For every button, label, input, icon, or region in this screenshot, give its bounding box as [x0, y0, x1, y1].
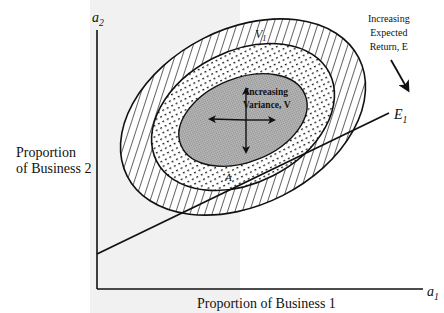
- v1-label: V1: [255, 27, 267, 46]
- return-label-line1: Increasing: [368, 12, 410, 26]
- y-axis-label-line2: of Business 2: [16, 161, 91, 177]
- e1-label: E1: [394, 107, 407, 127]
- x-axis-label: Proportion of Business 1: [197, 296, 336, 311]
- return-label-line2: Expected: [368, 26, 410, 40]
- variance-label-line2: Variance, V: [243, 99, 291, 112]
- point-a-label: A: [225, 170, 232, 185]
- variance-label-line1: Increasing: [243, 86, 291, 99]
- y-axis-symbol: a2: [92, 10, 104, 30]
- y-axis-label-line1: Proportion: [16, 145, 91, 161]
- increasing-return-label: Increasing Expected Return, E: [368, 12, 410, 54]
- return-label-line3: Return, E: [368, 40, 410, 54]
- increasing-variance-label: Increasing Variance, V: [243, 86, 291, 112]
- increasing-return-arrow-icon: [391, 60, 408, 90]
- y-axis-label: Proportion of Business 2: [16, 145, 91, 177]
- x-axis-symbol: a1: [427, 284, 439, 304]
